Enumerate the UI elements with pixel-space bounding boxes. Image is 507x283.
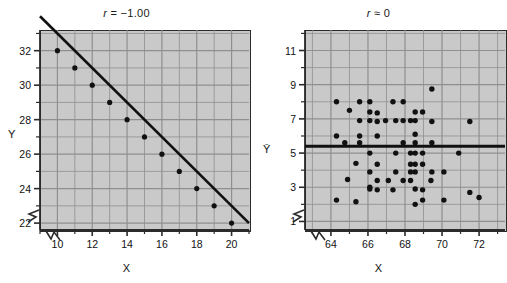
data-point bbox=[212, 203, 217, 208]
panel-right-graphics: 13579116466687072 bbox=[252, 0, 505, 283]
data-point bbox=[467, 190, 472, 195]
y-tick-label: 30 bbox=[19, 79, 31, 91]
panel-left-x-axis-label: X bbox=[0, 262, 253, 274]
x-tick-label: 14 bbox=[121, 238, 133, 250]
y-tick-label: 26 bbox=[19, 148, 31, 160]
data-point bbox=[476, 195, 481, 200]
y-tick-label: 32 bbox=[19, 45, 31, 57]
data-point bbox=[412, 140, 417, 145]
data-point bbox=[420, 161, 425, 166]
data-point bbox=[357, 118, 362, 123]
x-tick-label: 64 bbox=[325, 238, 337, 250]
data-point bbox=[412, 186, 417, 191]
data-point bbox=[420, 197, 425, 202]
panel-left-graphics: 222426283032101214161820 bbox=[0, 0, 253, 283]
data-point bbox=[420, 109, 425, 114]
data-point bbox=[408, 169, 413, 174]
data-point bbox=[390, 187, 395, 192]
data-point bbox=[353, 199, 358, 204]
data-point bbox=[159, 152, 164, 157]
data-point bbox=[375, 133, 380, 138]
data-point bbox=[357, 133, 362, 138]
x-tick-label: 16 bbox=[156, 238, 168, 250]
data-point bbox=[375, 178, 380, 183]
data-point bbox=[334, 133, 339, 138]
y-tick-label: 5 bbox=[290, 147, 296, 159]
data-point bbox=[420, 150, 425, 155]
x-tick-label: 10 bbox=[52, 238, 64, 250]
x-tick-label: 12 bbox=[86, 238, 98, 250]
data-point bbox=[177, 169, 182, 174]
data-point bbox=[107, 100, 112, 105]
data-point bbox=[400, 140, 405, 145]
panel-left-y-axis-label: Y bbox=[8, 128, 15, 140]
data-point bbox=[429, 169, 434, 174]
data-point bbox=[408, 118, 413, 123]
data-point bbox=[367, 118, 372, 123]
panel-right-correlation-zero: r ≈ 0 13579116466687072 bbox=[252, 0, 505, 283]
data-point bbox=[400, 118, 405, 123]
x-tick-label: 18 bbox=[191, 238, 203, 250]
data-point bbox=[353, 161, 358, 166]
data-point bbox=[467, 119, 472, 124]
data-point bbox=[390, 99, 395, 104]
data-point bbox=[420, 187, 425, 192]
data-point bbox=[408, 150, 413, 155]
data-point bbox=[400, 99, 405, 104]
data-point bbox=[429, 140, 434, 145]
y-tick-label: 7 bbox=[290, 113, 296, 125]
data-point bbox=[375, 110, 380, 115]
data-point bbox=[400, 178, 405, 183]
y-tick-label: 22 bbox=[19, 217, 31, 229]
data-point bbox=[342, 140, 347, 145]
data-point bbox=[375, 119, 380, 124]
data-point bbox=[124, 117, 129, 122]
y-tick-label: 9 bbox=[290, 79, 296, 91]
y-tick-label: 3 bbox=[290, 181, 296, 193]
y-tick-label: 11 bbox=[285, 45, 296, 57]
data-point bbox=[55, 48, 60, 53]
data-point bbox=[456, 150, 461, 155]
data-point bbox=[367, 150, 372, 155]
data-point bbox=[412, 150, 417, 155]
data-point bbox=[334, 197, 339, 202]
y-tick-label: 28 bbox=[19, 114, 31, 126]
data-point bbox=[367, 186, 372, 191]
data-point bbox=[429, 119, 434, 124]
data-point bbox=[412, 132, 417, 137]
data-point bbox=[408, 161, 413, 166]
data-point bbox=[412, 202, 417, 207]
data-point bbox=[357, 140, 362, 145]
x-tick-label: 70 bbox=[436, 238, 448, 250]
data-point bbox=[386, 178, 391, 183]
data-point bbox=[441, 197, 446, 202]
data-point bbox=[441, 169, 446, 174]
data-point bbox=[334, 99, 339, 104]
data-point bbox=[412, 169, 417, 174]
data-point bbox=[72, 65, 77, 70]
x-tick-label: 68 bbox=[399, 238, 411, 250]
data-point bbox=[408, 178, 413, 183]
data-point bbox=[142, 134, 147, 139]
panel-left-correlation-negative-one: r = −1.00 222426283032101214161820 Y X bbox=[0, 0, 253, 283]
data-point bbox=[375, 161, 380, 166]
data-point bbox=[383, 118, 388, 123]
data-point bbox=[412, 161, 417, 166]
y-axis-break-symbol bbox=[28, 210, 39, 222]
data-point bbox=[412, 109, 417, 114]
data-point bbox=[345, 177, 350, 182]
data-point bbox=[357, 99, 362, 104]
x-tick-label: 66 bbox=[362, 238, 374, 250]
data-point bbox=[367, 169, 372, 174]
panel-right-x-axis-label: X bbox=[252, 262, 505, 274]
data-point bbox=[194, 186, 199, 191]
data-point bbox=[393, 150, 398, 155]
panel-right-y-axis-label: Ȳ bbox=[263, 143, 270, 155]
data-point bbox=[412, 118, 417, 123]
data-point bbox=[90, 83, 95, 88]
x-axis-break-symbol bbox=[311, 231, 325, 240]
data-point bbox=[367, 109, 372, 114]
data-point bbox=[229, 221, 234, 226]
y-tick-label: 24 bbox=[19, 183, 31, 195]
